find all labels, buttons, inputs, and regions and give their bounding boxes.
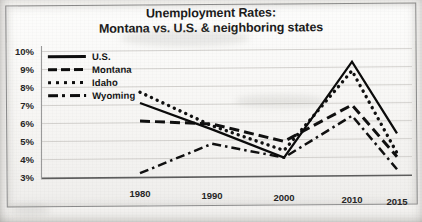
chart-figure: Unemployment Rates: Montana vs. U.S. & n… bbox=[0, 0, 422, 222]
x-tick-1990: 1990 bbox=[201, 190, 222, 201]
x-tick-2010: 2010 bbox=[341, 194, 362, 205]
x-tick-2015: 2015 bbox=[386, 196, 407, 207]
x-tick-1980: 1980 bbox=[129, 188, 150, 199]
x-axis-tick-labels: 1980 1990 2000 2010 2015 bbox=[0, 0, 422, 222]
x-tick-2000: 2000 bbox=[273, 192, 294, 203]
